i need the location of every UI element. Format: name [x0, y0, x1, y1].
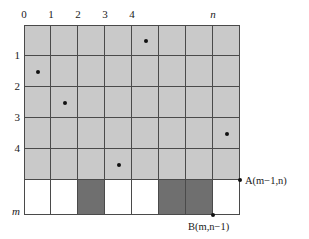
- cell-dot: [117, 163, 121, 167]
- grid-area: [24, 25, 240, 215]
- top-axis-tick-n: n: [205, 9, 221, 20]
- grid-cell: [213, 56, 240, 87]
- grid-cell: [51, 56, 78, 87]
- grid-cell: [213, 149, 240, 180]
- grid-cell: [78, 149, 105, 180]
- grid-cell: [24, 149, 51, 180]
- grid-cell: [186, 87, 213, 118]
- figure-root: 0 1 2 3 4 n 1 2 3 4 m: [0, 0, 309, 239]
- left-axis-tick-2: 2: [4, 81, 20, 92]
- grid-cell: [78, 25, 105, 56]
- grid-cell: [105, 180, 132, 215]
- top-axis-tick-3: 3: [97, 9, 113, 20]
- grid-cell: [186, 118, 213, 149]
- grid-cell: [51, 118, 78, 149]
- grid-cell-shaded: [78, 180, 105, 215]
- point-b-marker: [211, 213, 215, 217]
- grid-cell: [213, 87, 240, 118]
- grid-cell: [105, 56, 132, 87]
- left-axis-tick-4: 4: [4, 143, 20, 154]
- grid-cell: [24, 180, 51, 215]
- left-axis-tick-3: 3: [4, 112, 20, 123]
- point-b-label: B(m,n−1): [188, 221, 229, 232]
- grid-cell: [132, 118, 159, 149]
- grid-cell: [159, 149, 186, 180]
- grid-cell: [78, 118, 105, 149]
- grid-cell: [159, 118, 186, 149]
- grid-cell: [24, 118, 51, 149]
- point-a-label: A(m−1,n): [245, 175, 287, 186]
- grid-cell: [51, 180, 78, 215]
- top-axis-tick-4: 4: [124, 9, 140, 20]
- left-axis-tick-1: 1: [4, 50, 20, 61]
- cell-dot: [225, 132, 229, 136]
- grid-cell: [186, 56, 213, 87]
- grid-cell: [105, 87, 132, 118]
- point-a-marker: [238, 178, 242, 182]
- cell-dot: [63, 101, 67, 105]
- grid-cell: [213, 25, 240, 56]
- grid-cell: [24, 87, 51, 118]
- cell-dot: [36, 70, 40, 74]
- grid-cell-shaded: [159, 180, 186, 215]
- grid-cell: [78, 56, 105, 87]
- grid-cell: [78, 87, 105, 118]
- cell-dot: [144, 39, 148, 43]
- top-axis-tick-0: 0: [16, 9, 32, 20]
- grid-cell: [24, 25, 51, 56]
- grid-cell: [51, 25, 78, 56]
- grid-cell: [213, 180, 240, 215]
- grid-cell: [105, 118, 132, 149]
- grid-cell: [132, 180, 159, 215]
- left-axis-tick-m: m: [4, 206, 20, 217]
- grid-cell-shaded: [186, 180, 213, 215]
- grid-cell: [132, 56, 159, 87]
- grid-cell: [105, 25, 132, 56]
- grid-cell: [132, 149, 159, 180]
- grid-cell: [159, 25, 186, 56]
- grid-cell: [186, 25, 213, 56]
- grid-cell: [159, 56, 186, 87]
- grid-cell: [51, 149, 78, 180]
- grid-cell: [159, 87, 186, 118]
- grid-cell: [132, 87, 159, 118]
- grid-cell: [186, 149, 213, 180]
- top-axis-tick-2: 2: [70, 9, 86, 20]
- top-axis-tick-1: 1: [43, 9, 59, 20]
